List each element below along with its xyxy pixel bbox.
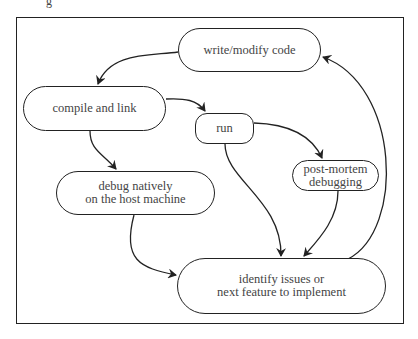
edge-compile-to-run [166, 99, 205, 111]
edge-run-to-postmortem [254, 123, 322, 158]
node-run: run [195, 113, 254, 144]
node-label-line-2: debugging [309, 176, 362, 189]
node-label-line-2: on the host machine [85, 193, 185, 206]
node-post-mortem-debugging: post-mortem debugging [292, 160, 379, 191]
edge-identify-to-write [323, 57, 386, 259]
node-debug-natively: debug natively on the host machine [56, 171, 215, 215]
node-label-line-2: next feature to implement [217, 286, 346, 299]
edge-debug-to-identify [130, 215, 176, 275]
node-label: write/modify code [204, 44, 296, 57]
node-write-modify-code: write/modify code [178, 28, 321, 72]
node-compile-and-link: compile and link [23, 86, 166, 131]
node-label: run [216, 122, 233, 135]
node-label: compile and link [52, 102, 136, 115]
edge-run-to-identify [225, 144, 281, 256]
edge-write-to-compile [98, 52, 178, 84]
node-identify-issues: identify issues or next feature to imple… [177, 258, 386, 314]
edge-compile-to-debug [90, 131, 116, 169]
node-label-line-1: post-mortem [304, 163, 368, 176]
edge-postmortem-to-identify [304, 191, 338, 256]
